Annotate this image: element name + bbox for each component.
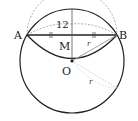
label-r-upper: r <box>87 40 91 48</box>
label-12: 12 <box>56 19 69 30</box>
radius-lower <box>72 61 117 88</box>
label-o: O <box>62 65 71 78</box>
radius-ob <box>72 35 117 61</box>
label-a: A <box>13 29 23 42</box>
label-b: B <box>119 29 127 42</box>
geometry-diagram: A B M O 12 r r <box>0 0 138 121</box>
label-m: M <box>59 40 70 53</box>
center-point-o <box>70 59 73 62</box>
label-r-lower: r <box>89 78 93 86</box>
